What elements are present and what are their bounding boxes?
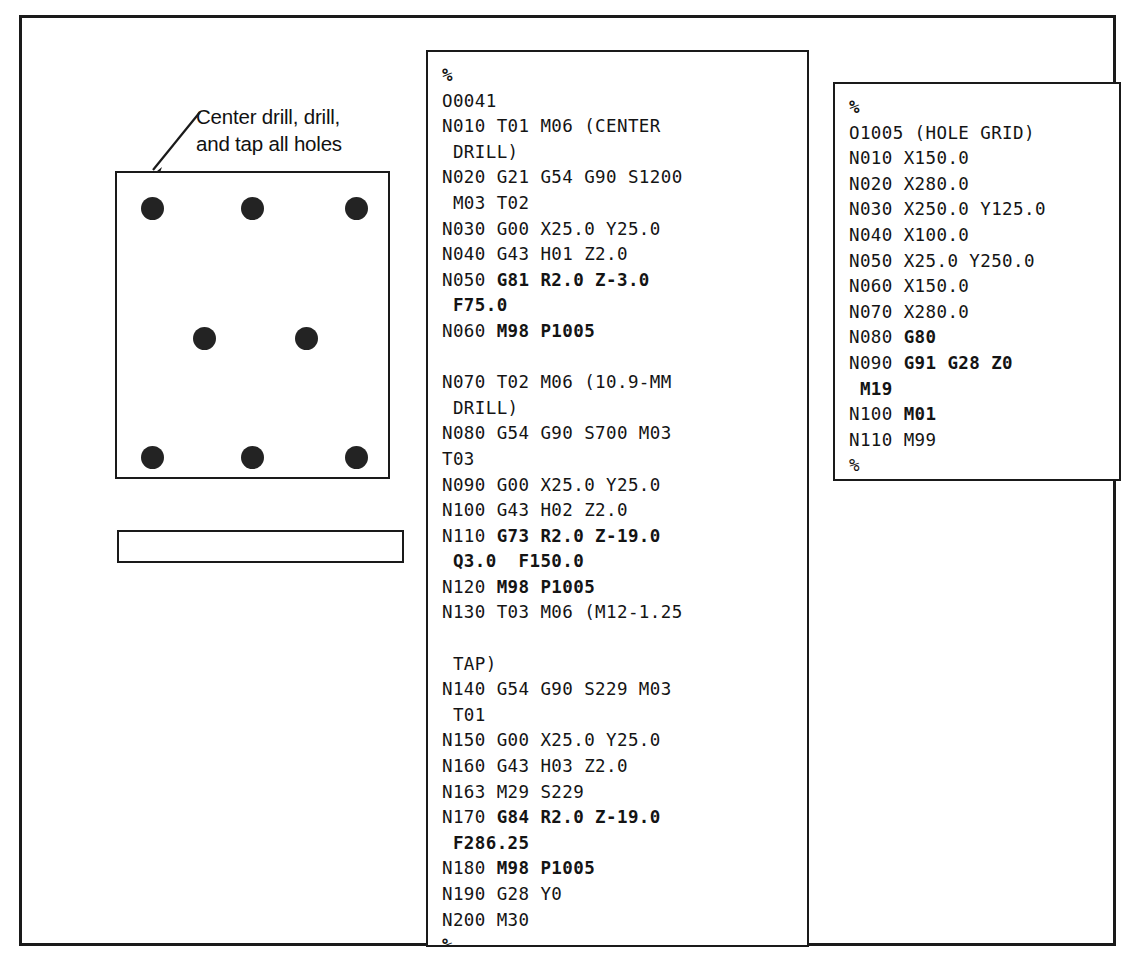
main-program-line-21: N120 M98 P1005 <box>442 575 801 601</box>
subprogram-line-11: N090 G91 G28 Z0 <box>849 351 1113 377</box>
main-program-line-23 <box>442 626 801 652</box>
subprogram-line-15: % <box>849 453 1113 479</box>
main-program-line-14: DRILL) <box>442 396 801 422</box>
subprogram-line-5: N030 X250.0 Y125.0 <box>849 197 1113 223</box>
subprogram-listing: %O1005 (HOLE GRID)N010 X150.0N020 X280.0… <box>849 95 1113 479</box>
main-program-listing: %O0041N010 T01 M06 (CENTER DRILL)N020 G2… <box>442 63 801 947</box>
main-program-line-20: Q3.0 F150.0 <box>442 549 801 575</box>
main-program-line-5: N020 G21 G54 G90 S1200 <box>442 165 801 191</box>
part-top-view <box>115 171 390 479</box>
main-program-line-12 <box>442 345 801 371</box>
hole-1 <box>141 197 164 220</box>
subprogram-line-1: % <box>849 95 1113 121</box>
main-program-line-32: N180 M98 P1005 <box>442 856 801 882</box>
subprogram-line-8: N060 X150.0 <box>849 274 1113 300</box>
main-program-line-33: N190 G28 Y0 <box>442 882 801 908</box>
main-program-line-30: N170 G84 R2.0 Z-19.0 <box>442 805 801 831</box>
main-program-line-35: % <box>442 933 801 947</box>
subprogram-line-2: O1005 (HOLE GRID) <box>849 121 1113 147</box>
main-program-line-22: N130 T03 M06 (M12-1.25 <box>442 600 801 626</box>
main-program-line-19: N110 G73 R2.0 Z-19.0 <box>442 524 801 550</box>
hole-2 <box>241 197 264 220</box>
subprogram-line-14: N110 M99 <box>849 428 1113 454</box>
subprogram-line-9: N070 X280.0 <box>849 300 1113 326</box>
main-program-line-18: N100 G43 H02 Z2.0 <box>442 498 801 524</box>
main-program-line-3: N010 T01 M06 (CENTER <box>442 114 801 140</box>
hole-3 <box>345 197 368 220</box>
main-program-line-10: F75.0 <box>442 293 801 319</box>
hole-5 <box>295 327 318 350</box>
part-drawing-panel: Center drill, drill, and tap all holes <box>22 18 422 618</box>
hole-8 <box>345 446 368 469</box>
hole-7 <box>241 446 264 469</box>
subprogram-line-4: N020 X280.0 <box>849 172 1113 198</box>
part-side-view <box>117 530 404 563</box>
main-program-line-16: T03 <box>442 447 801 473</box>
main-program-line-25: N140 G54 G90 S229 M03 <box>442 677 801 703</box>
main-program-line-15: N080 G54 G90 S700 M03 <box>442 421 801 447</box>
main-program-line-1: % <box>442 63 801 89</box>
figure-outer-border: Center drill, drill, and tap all holes %… <box>19 15 1116 946</box>
main-program-line-7: N030 G00 X25.0 Y25.0 <box>442 217 801 243</box>
main-program-code-box: %O0041N010 T01 M06 (CENTER DRILL)N020 G2… <box>426 50 809 947</box>
main-program-line-28: N160 G43 H03 Z2.0 <box>442 754 801 780</box>
subprogram-line-7: N050 X25.0 Y250.0 <box>849 249 1113 275</box>
subprogram-code-box: %O1005 (HOLE GRID)N010 X150.0N020 X280.0… <box>833 82 1121 481</box>
subprogram-line-3: N010 X150.0 <box>849 146 1113 172</box>
subprogram-line-12: M19 <box>849 377 1113 403</box>
subprogram-line-10: N080 G80 <box>849 325 1113 351</box>
main-program-line-26: T01 <box>442 703 801 729</box>
main-program-line-29: N163 M29 S229 <box>442 780 801 806</box>
main-program-line-27: N150 G00 X25.0 Y25.0 <box>442 728 801 754</box>
main-program-line-17: N090 G00 X25.0 Y25.0 <box>442 473 801 499</box>
main-program-line-34: N200 M30 <box>442 908 801 934</box>
main-program-line-8: N040 G43 H01 Z2.0 <box>442 242 801 268</box>
hole-4 <box>193 327 216 350</box>
main-program-line-24: TAP) <box>442 652 801 678</box>
main-program-line-4: DRILL) <box>442 140 801 166</box>
main-program-line-6: M03 T02 <box>442 191 801 217</box>
main-program-line-13: N070 T02 M06 (10.9-MM <box>442 370 801 396</box>
main-program-line-11: N060 M98 P1005 <box>442 319 801 345</box>
hole-6 <box>141 446 164 469</box>
main-program-line-2: O0041 <box>442 89 801 115</box>
figure-page: Center drill, drill, and tap all holes %… <box>0 0 1134 967</box>
subprogram-line-13: N100 M01 <box>849 402 1113 428</box>
main-program-line-31: F286.25 <box>442 831 801 857</box>
main-program-line-9: N050 G81 R2.0 Z-3.0 <box>442 268 801 294</box>
subprogram-line-6: N040 X100.0 <box>849 223 1113 249</box>
